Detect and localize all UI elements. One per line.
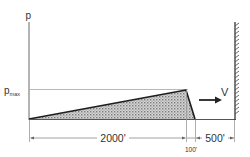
p-axis-label: p xyxy=(26,10,32,21)
pressure-diagram: p pmax V xyxy=(0,0,250,157)
velocity-arrow-icon xyxy=(199,97,222,104)
pmax-label: pmax xyxy=(4,85,20,97)
velocity-label: V xyxy=(221,86,229,98)
dim-100-label: 100' xyxy=(185,146,197,153)
dim-500-label: 500' xyxy=(205,132,225,144)
dim-2000-label: 2000' xyxy=(100,132,125,144)
